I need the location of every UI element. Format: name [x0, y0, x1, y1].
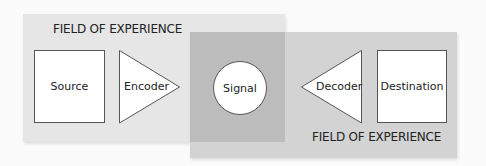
destination-label: Destination [380, 80, 443, 93]
signal-label: Signal [223, 82, 257, 95]
source-label: Source [51, 80, 89, 93]
source-node: Source [34, 50, 105, 123]
encoder-label: Encoder [124, 80, 169, 93]
receiver-field-label: FIELD OF EXPERIENCE [312, 130, 441, 144]
sender-field-label: FIELD OF EXPERIENCE [53, 22, 182, 36]
decoder-label: Decoder [316, 80, 362, 93]
destination-node: Destination [377, 50, 447, 123]
signal-node: Signal [213, 61, 267, 115]
